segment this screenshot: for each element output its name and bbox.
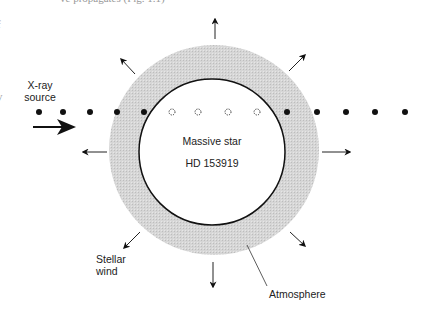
atmosphere-leader-line [247,245,267,286]
atmosphere-label: Atmosphere [269,288,326,300]
star-id-label: HD 153919 [162,157,262,169]
wind-arrow-down-right [290,232,305,246]
wind-arrow-up-left [121,59,135,74]
edge-fragment-2: y [0,90,3,102]
edge-fragment-1: f [0,18,1,30]
star-name-label: Massive star [162,135,262,147]
wind-arrow-down-left [124,232,140,248]
caption-fragment: ve propagates (Fig. 1.1) [60,0,165,4]
orbit-direction-arrow [33,119,76,135]
wind-arrow-up-right [289,55,305,71]
massive-star [139,79,285,225]
diagram-canvas [0,0,427,311]
xray-source-label: X-ray source [17,79,63,103]
stellar-wind-label: Stellar wind [96,253,126,277]
